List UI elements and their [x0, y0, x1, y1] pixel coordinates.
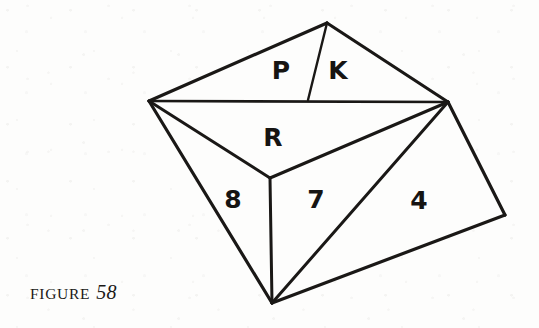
- caption-number: 58: [96, 281, 117, 303]
- face-7-label: 7: [307, 187, 325, 212]
- edge-left-right: [149, 101, 448, 102]
- polyhedron-diagram: [0, 0, 539, 328]
- face-4-label: 4: [410, 188, 428, 213]
- figure-caption: FIGURE58: [30, 281, 117, 304]
- figure-container: PKR874 FIGURE58: [0, 0, 539, 328]
- faces-group: [149, 23, 505, 303]
- face-p-label: P: [272, 58, 291, 83]
- face-r-label: R: [263, 125, 282, 150]
- edge-center-bottom: [270, 178, 272, 303]
- face-8-label: 8: [224, 187, 242, 212]
- face-k-label: K: [328, 58, 348, 83]
- caption-word: FIGURE: [30, 285, 90, 302]
